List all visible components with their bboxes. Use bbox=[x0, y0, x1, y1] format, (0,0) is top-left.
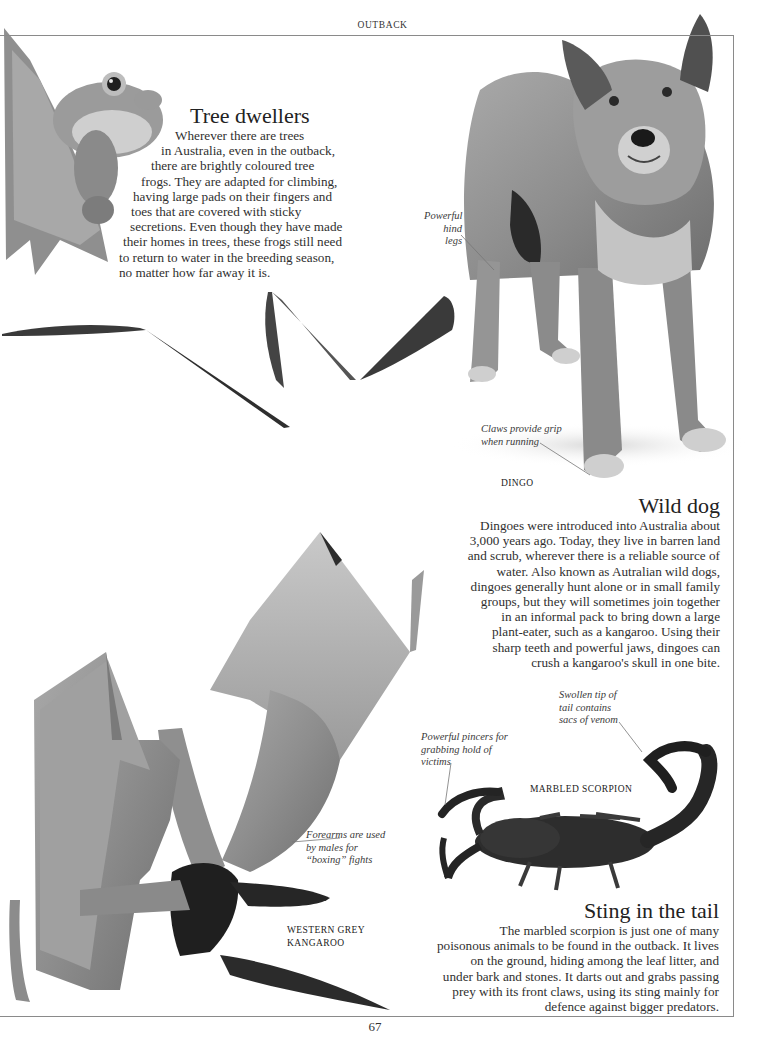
caption-tail-venom: Swollen tip of tail contains sacs of ven… bbox=[559, 689, 618, 727]
caption-pincers: Powerful pincers for grabbing hold of vi… bbox=[421, 731, 508, 769]
top-rule bbox=[0, 35, 734, 36]
torn-photo-fragments bbox=[2, 292, 454, 428]
right-rule bbox=[733, 35, 734, 1017]
section-sting-in-the-tail: Sting in the tail The marbled scorpion i… bbox=[420, 899, 719, 1014]
bottom-rule bbox=[0, 1016, 734, 1017]
section-title: Tree dwellers bbox=[190, 104, 388, 128]
section-body: Wherever there are trees in Australia, e… bbox=[118, 128, 388, 280]
caption-forearms: Forearms are used by males for “boxing” … bbox=[306, 829, 385, 867]
section-title: Wild dog bbox=[440, 494, 720, 518]
page-number: 67 bbox=[0, 1019, 750, 1035]
section-title: Sting in the tail bbox=[420, 899, 719, 923]
section-body: Dingoes were introduced into Australia a… bbox=[440, 518, 720, 670]
label-dingo: DINGO bbox=[501, 477, 534, 490]
dingo-photo bbox=[450, 14, 750, 478]
caption-hind-legs: Powerful hind legs bbox=[424, 210, 462, 248]
section-tree-dwellers: Tree dwellers Wherever there are trees i… bbox=[118, 104, 388, 280]
section-wild-dog: Wild dog Dingoes were introduced into Au… bbox=[440, 494, 720, 670]
caption-claws: Claws provide grip when running bbox=[481, 423, 562, 448]
label-western-grey-kangaroo: WESTERN GREY KANGAROO bbox=[287, 924, 365, 949]
section-body: The marbled scorpion is just one of many… bbox=[420, 923, 719, 1014]
running-head: OUTBACK bbox=[0, 20, 765, 30]
label-marbled-scorpion: MARBLED SCORPION bbox=[530, 783, 632, 796]
